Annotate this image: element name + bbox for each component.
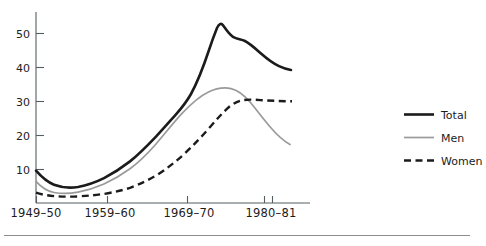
legend-item-women: Women (404, 155, 482, 168)
chart-figure: 50 40 30 20 10 1949–50 1959–60 1969–70 1… (0, 0, 486, 246)
y-tick-label-30: 30 (16, 96, 30, 109)
legend-item-men: Men (404, 132, 464, 145)
chart-legend: Total Men Women (404, 109, 482, 168)
x-tick-label-1949-50: 1949–50 (10, 206, 61, 220)
series-line-men (36, 88, 290, 193)
line-chart: 50 40 30 20 10 1949–50 1959–60 1969–70 1… (0, 0, 486, 246)
x-tick-label-1959-60: 1959–60 (84, 206, 135, 220)
series-line-women (36, 100, 292, 197)
x-tick-label-1980-81: 1980–81 (245, 206, 296, 220)
y-tick-label-50: 50 (16, 28, 30, 41)
legend-label-total: Total (440, 109, 467, 122)
legend-label-women: Women (441, 155, 482, 168)
y-tick-label-10: 10 (16, 164, 30, 177)
legend-item-total: Total (404, 109, 467, 122)
legend-label-men: Men (441, 132, 464, 145)
y-tick-label-20: 20 (16, 130, 30, 143)
y-tick-label-40: 40 (16, 62, 30, 75)
x-tick-label-1969-70: 1969–70 (163, 206, 214, 220)
